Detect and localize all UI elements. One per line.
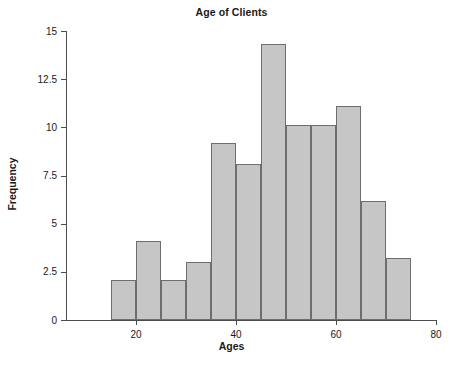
y-tick-label: 0 (51, 315, 57, 326)
histogram-bar (212, 143, 236, 319)
x-tick-label: 80 (430, 329, 442, 340)
histogram-bar (362, 201, 386, 319)
x-tick-label: 40 (230, 329, 242, 340)
histogram-bar (112, 280, 136, 319)
y-tick-label: 5 (51, 218, 57, 229)
y-tick-label: 12.5 (38, 74, 58, 85)
histogram-bar (162, 280, 186, 319)
histogram-bar (337, 107, 361, 320)
histogram-bar (137, 242, 161, 320)
histogram-bar (187, 263, 211, 320)
histogram-chart: Age of Clients Frequency Ages 02.557.510… (0, 0, 463, 367)
y-tick-label: 7.5 (43, 170, 57, 181)
x-tick-label: 20 (130, 329, 142, 340)
histogram-bar (312, 126, 336, 320)
bars-group (112, 45, 411, 320)
y-tick-label: 15 (46, 26, 58, 37)
plot-area: 02.557.51012.51520406080 (0, 0, 463, 367)
histogram-bar (237, 164, 261, 319)
histogram-bar (387, 259, 411, 320)
y-tick-label: 2.5 (43, 266, 57, 277)
histogram-bar (287, 126, 311, 320)
y-tick-label: 10 (46, 122, 58, 133)
x-tick-label: 60 (330, 329, 342, 340)
histogram-bar (262, 45, 286, 320)
